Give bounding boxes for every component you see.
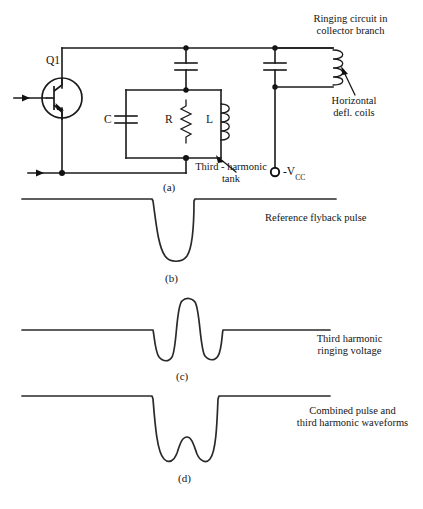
- third-harmonic-tank-note-line1: Third - harmonic: [188, 161, 274, 173]
- figure-svg: [0, 0, 423, 509]
- base-input-arrow-icon: [22, 95, 30, 102]
- panel-d-caption: (d): [178, 472, 191, 485]
- resistor-r-label: R: [165, 113, 173, 127]
- supply-label-prefix: -V: [283, 165, 295, 177]
- circuit-schematic: [14, 45, 355, 176]
- horizontal-coils-note: Horizontal defl. coils: [306, 95, 402, 120]
- waveform-c-label: Third harmonic ringing voltage: [292, 333, 407, 358]
- node-tank-top-center: [183, 87, 188, 92]
- panel-c-caption: (c): [176, 370, 188, 383]
- figure-root: Ringing circuit in collector branch Q1 C…: [0, 0, 423, 509]
- panel-b-caption: (b): [165, 272, 178, 285]
- supply-label: -VCC: [283, 165, 305, 181]
- ringing-circuit-note: Ringing circuit in collector branch: [283, 13, 418, 38]
- capacitor-c-label: C: [104, 113, 112, 127]
- panel-a-caption: (a): [163, 181, 175, 194]
- waveform-d-label-line2: third harmonic waveforms: [285, 417, 420, 429]
- tank-resistor-zigzag-icon: [181, 100, 191, 143]
- inductor-l-label: L: [206, 113, 213, 127]
- waveform-c-label-line1: Third harmonic: [292, 333, 407, 345]
- bottom-input-arrow-icon: [36, 170, 44, 177]
- supply-label-subscript: CC: [295, 173, 305, 182]
- waveform-d-label: Combined pulse and third harmonic wavefo…: [285, 405, 420, 430]
- transistor-emitter-arrow-icon: [56, 103, 65, 111]
- ringing-circuit-note-line2: collector branch: [283, 25, 418, 37]
- node-bottom-rail-emitter: [59, 170, 65, 176]
- waveform-b-trace: [22, 199, 336, 261]
- horizontal-coils-note-line1: Horizontal: [306, 95, 402, 107]
- waveform-d-label-line1: Combined pulse and: [285, 405, 420, 417]
- ringing-circuit-note-line1: Ringing circuit in: [283, 13, 418, 25]
- waveform-b-label: Reference flyback pulse: [265, 212, 366, 224]
- third-harmonic-tank-note: Third - harmonic tank: [188, 161, 274, 186]
- horizontal-coils-note-line2: defl. coils: [306, 107, 402, 119]
- waveform-c-trace: [22, 298, 330, 360]
- third-harmonic-tank-note-line2: tank: [188, 173, 274, 185]
- transistor-label: Q1: [46, 54, 60, 68]
- tank-inductor-coil-icon: [221, 104, 229, 140]
- waveform-c-label-line2: ringing voltage: [292, 345, 407, 357]
- waveform-d-trace: [22, 396, 330, 461]
